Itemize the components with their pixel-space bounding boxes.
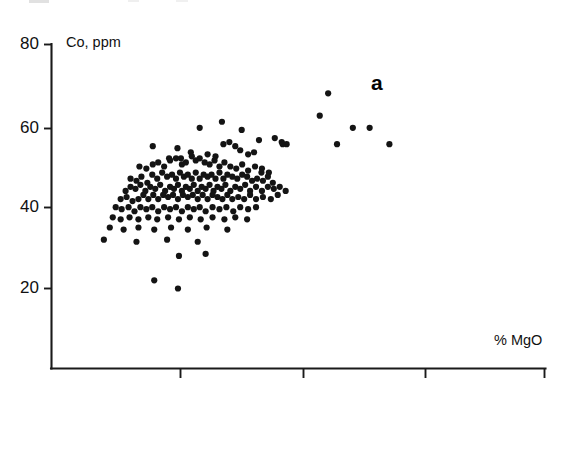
data-point [245,151,251,157]
data-point [155,159,161,165]
data-point [191,182,197,188]
data-point [223,204,229,210]
data-point [219,119,225,125]
data-point [216,163,222,169]
data-point [367,125,373,131]
data-point [226,139,232,145]
data-point [132,186,138,192]
data-point [187,214,193,220]
data-point [229,196,235,202]
data-point [131,208,137,214]
data-point [185,204,191,210]
data-point [275,192,281,198]
data-point [152,186,158,192]
data-point [143,206,149,212]
data-point [173,204,179,210]
data-point [280,141,286,147]
data-point [237,186,243,192]
data-point [219,196,225,202]
data-point [176,216,182,222]
data-point [165,214,171,220]
data-point [325,90,331,96]
y-tick-label-60: 60 [20,118,39,137]
data-point [211,157,217,163]
data-point [251,149,257,155]
data-point [118,196,124,202]
data-point [272,135,278,141]
y-tick-label-20: 20 [20,278,39,297]
data-point [174,145,180,151]
data-point [123,194,129,200]
data-point [209,204,215,210]
data-point [133,239,139,245]
data-point [123,188,129,194]
data-point [204,224,210,230]
data-point [175,196,181,202]
data-point [198,216,204,222]
data-point [317,113,323,119]
data-point [101,237,107,243]
data-point [386,141,392,147]
data-point [221,216,227,222]
y-tick-label-40: 40 [20,197,39,216]
data-point [127,176,133,182]
data-point [197,155,203,161]
data-point [244,216,250,222]
data-point [212,176,218,182]
data-point [190,192,196,198]
data-point [167,157,173,163]
data-point [118,216,124,222]
data-point [150,143,156,149]
data-point [135,224,141,230]
data-point [149,204,155,210]
data-point [224,226,230,232]
data-point [145,214,151,220]
data-point [164,237,170,243]
data-point [145,196,151,202]
data-point [168,224,174,230]
y-axis-tick-labels: 80 60 40 20 [20,34,39,297]
data-point [150,161,156,167]
data-point [173,155,179,161]
data-point [265,184,271,190]
data-point [167,206,173,212]
data-point [271,186,277,192]
data-point [239,161,245,167]
data-point [159,170,165,176]
scatter-plot: 80 60 40 20 Co, ppm % MgO a [0,0,571,449]
data-point [277,184,283,190]
data-point [253,196,259,202]
data-point [140,192,146,198]
figure-container: 80 60 40 20 Co, ppm % MgO a [0,0,571,449]
data-point [235,194,241,200]
data-point [265,174,271,180]
data-point [197,125,203,131]
data-point [121,226,127,232]
data-point [119,206,125,212]
data-point [191,206,197,212]
data-point [245,167,251,173]
data-point [242,182,248,188]
data-point [203,208,209,214]
data-point [155,208,161,214]
data-point [189,176,195,182]
data-point [154,176,160,182]
data-point [283,188,289,194]
data-point [137,182,143,188]
data-point [350,125,356,131]
data-point [253,204,259,210]
data-point [237,204,243,210]
data-point [170,192,176,198]
data-point [239,127,245,133]
data-point [206,182,212,188]
data-point [183,159,189,165]
data-point [233,165,239,171]
data-point [260,194,266,200]
data-point [224,192,230,198]
data-point [113,204,119,210]
data-point [209,214,215,220]
data-point [247,192,253,198]
data-point [149,172,155,178]
data-point [258,170,264,176]
data-point [197,204,203,210]
